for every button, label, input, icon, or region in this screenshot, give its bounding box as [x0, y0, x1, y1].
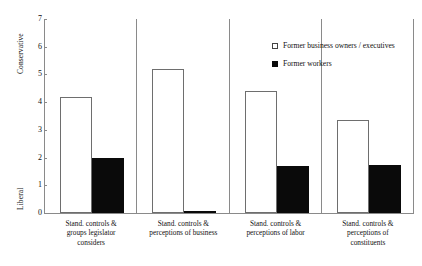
x-category-label-4: Stand. controls &perceptions ofconstitue… [322, 219, 414, 247]
bar-2-series-2 [184, 211, 216, 213]
y-tick-label-1: 1 [30, 181, 42, 189]
y-tick-mark-0 [44, 213, 47, 214]
legend-item-former-workers: Former workers [272, 60, 395, 68]
chart-legend: Former business owners / executives Form… [272, 42, 395, 78]
y-tick-label-0: 0 [30, 209, 42, 217]
bar-3-series-1 [245, 91, 277, 213]
legend-label-business-owners: Former business owners / executives [283, 42, 395, 50]
x-category-1-line-2: groups legislator [45, 228, 137, 237]
legend-item-business-owners: Former business owners / executives [272, 42, 395, 50]
legend-label-former-workers: Former workers [283, 60, 332, 68]
bar-1-series-2 [92, 158, 124, 213]
bar-4-series-1 [337, 120, 369, 213]
bar-1-series-1 [60, 97, 92, 213]
bar-4-series-2 [369, 165, 401, 214]
x-category-4-line-1: Stand. controls & [322, 219, 414, 228]
x-category-3-line-1: Stand. controls & [230, 219, 322, 228]
y-tick-label-3: 3 [30, 126, 42, 134]
bar-2-series-1 [152, 69, 184, 213]
y-axis-top-label: Conservative [16, 33, 25, 74]
y-tick-label-2: 2 [30, 154, 42, 162]
group-separator-4 [413, 19, 414, 213]
x-category-label-2: Stand. controls &perceptions of business [137, 219, 229, 238]
group-separator-1 [136, 19, 137, 213]
group-separator-2 [229, 19, 230, 213]
y-tick-label-4: 4 [30, 98, 42, 106]
x-category-4-line-3: constituents [322, 238, 414, 247]
filled-square-icon [272, 61, 278, 67]
x-category-label-3: Stand. controls &perceptions of labor [230, 219, 322, 238]
x-category-1-line-1: Stand. controls & [45, 219, 137, 228]
y-tick-label-6: 6 [30, 43, 42, 51]
y-tick-label-7: 7 [30, 15, 42, 23]
y-tick-label-5: 5 [30, 70, 42, 78]
x-category-4-line-2: perceptions of [322, 228, 414, 237]
x-category-3-line-2: perceptions of labor [230, 228, 322, 237]
bar-3-series-2 [277, 166, 309, 213]
x-axis-line [44, 213, 414, 214]
x-category-2-line-1: Stand. controls & [137, 219, 229, 228]
x-category-1-line-3: considers [45, 238, 137, 247]
y-axis-bottom-label: Liberal [16, 188, 25, 210]
x-category-label-1: Stand. controls &groups legislatorconsid… [45, 219, 137, 247]
open-square-icon [272, 43, 278, 49]
bar-chart: Conservative Liberal 76543210 Stand. con… [0, 0, 422, 266]
x-category-2-line-2: perceptions of business [137, 228, 229, 237]
